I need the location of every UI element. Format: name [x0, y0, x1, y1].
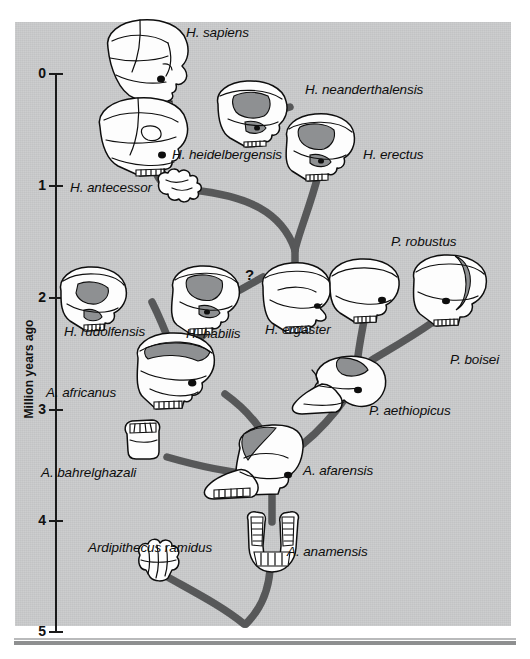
species-label-h-heidelbergensis: H. heidelbergensis: [172, 148, 282, 162]
skull-neanderthal-icon: [218, 81, 287, 147]
skull-rudolfensis-icon: [61, 267, 127, 331]
species-label-a-africanus: A. africanus: [46, 386, 116, 400]
mandible-anamensis-icon: [248, 512, 299, 572]
species-label-h-erectus: H. erectus: [363, 148, 424, 162]
skull-heidelbergensis-icon: [99, 98, 187, 176]
skull-boisei-icon: [414, 255, 487, 326]
skull-robustus-icon: [330, 259, 400, 323]
skull-sapiens-icon: [108, 20, 188, 107]
skull-habilis-icon: [172, 266, 240, 335]
species-label-a-anamensis: A. anamensis: [287, 545, 368, 559]
fragment-antecessor-icon: [158, 169, 201, 202]
jaw-bahrelghazali-icon: [125, 420, 159, 459]
species-label-p-robustus: P. robustus: [391, 235, 456, 249]
skull-erectus-icon: [286, 114, 354, 181]
footer-rule-thin: [14, 638, 516, 640]
species-label-p-aethiopicus: P. aethiopicus: [369, 404, 451, 418]
species-label-a-bahrelghazali: A. bahrelghazali: [41, 466, 136, 480]
uncertain-link-question-mark: ?: [245, 266, 254, 283]
species-label-ardipithecus-ramidus: Ardipithecus ramidus: [88, 541, 212, 555]
skull-africanus-icon: [137, 333, 214, 409]
species-label-h-rudolfensis: H. rudolfensis: [64, 325, 145, 339]
skull-afarensis-icon: [204, 425, 303, 499]
species-label-h-habilis: H. habilis: [186, 327, 241, 341]
species-label-h-ergaster: H. ergaster: [265, 323, 331, 337]
species-label-h-antecessor: H. antecessor: [70, 181, 152, 195]
species-label-h-sapiens: H. sapiens: [186, 26, 249, 40]
species-label-h-neanderthalensis: H. neanderthalensis: [305, 83, 423, 97]
footer-rule-thick: [14, 641, 516, 645]
phylogeny-figure: 0 1 2 3 4 5 Million years ago: [0, 0, 530, 659]
species-label-a-afarensis: A. afarensis: [303, 464, 373, 478]
species-label-p-boisei: P. boisei: [450, 353, 499, 367]
